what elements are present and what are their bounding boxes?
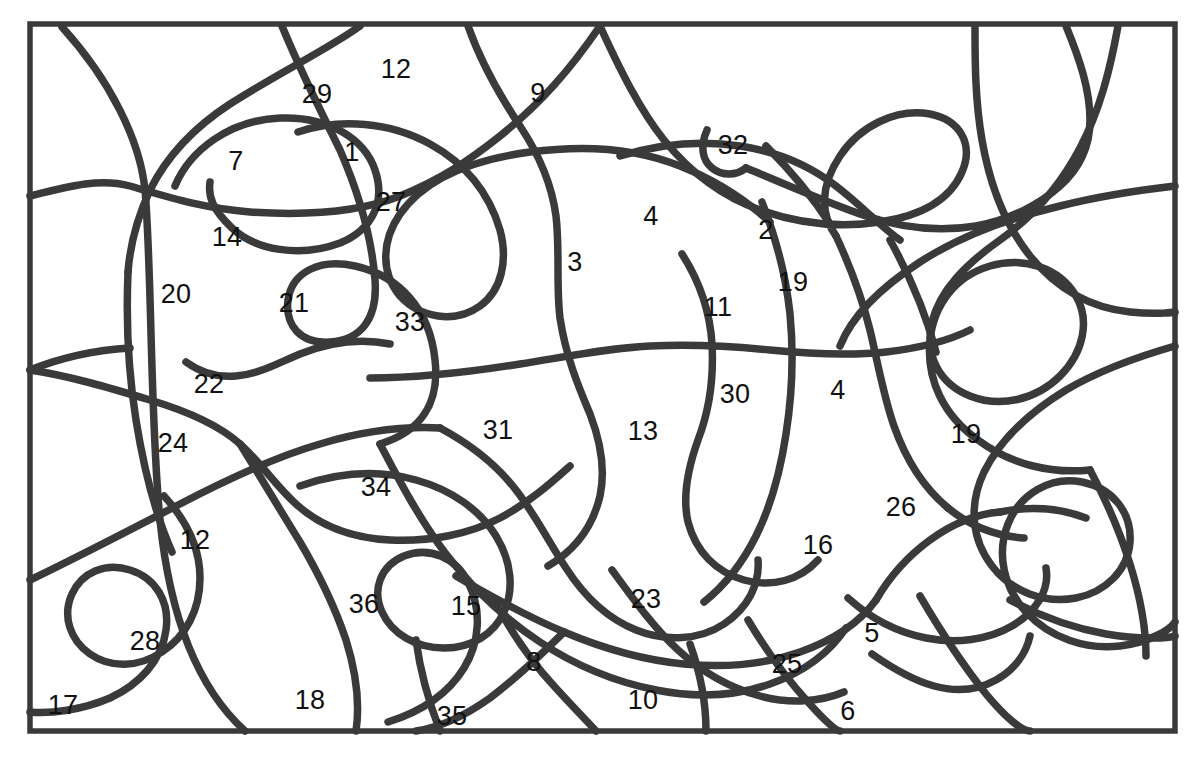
- map-curve: [456, 576, 876, 666]
- map-curve: [746, 26, 1090, 229]
- region-number-label: 19: [778, 269, 809, 296]
- region-number-label: 34: [361, 474, 392, 501]
- region-number-label: 22: [194, 371, 225, 398]
- region-number-label: 17: [48, 692, 79, 719]
- map-curve: [30, 370, 570, 540]
- region-number-label: 12: [381, 56, 412, 83]
- region-number-label: 13: [628, 418, 659, 445]
- region-number-label: 20: [161, 281, 192, 308]
- region-number-label: 28: [130, 628, 161, 655]
- region-number-label: 30: [720, 381, 751, 408]
- region-number-label: 2: [758, 217, 773, 244]
- region-number-label: 1: [344, 139, 359, 166]
- region-number-label: 29: [302, 81, 333, 108]
- region-number-label: 14: [212, 224, 243, 251]
- region-number-label: 4: [643, 203, 658, 230]
- region-number-label: 31: [483, 417, 514, 444]
- region-number-label: 15: [451, 593, 482, 620]
- region-number-label: 10: [628, 687, 659, 714]
- region-number-label: 36: [349, 591, 380, 618]
- region-number-label: 26: [886, 494, 917, 521]
- region-number-label: 9: [530, 80, 545, 107]
- region-number-label: 27: [376, 189, 407, 216]
- map-curve: [30, 428, 440, 580]
- region-number-label: 33: [395, 309, 426, 336]
- region-number-label: 7: [228, 148, 243, 175]
- region-number-label: 32: [718, 132, 749, 159]
- region-number-label: 16: [803, 532, 834, 559]
- map-curve: [30, 348, 130, 370]
- map-curve: [690, 644, 706, 731]
- map-svg: [0, 0, 1200, 759]
- region-number-label: 24: [158, 430, 189, 457]
- region-number-label: 35: [437, 703, 468, 730]
- region-number-label: 19: [951, 421, 982, 448]
- region-number-label: 5: [864, 620, 879, 647]
- region-number-label: 3: [567, 249, 582, 276]
- region-number-label: 21: [279, 290, 310, 317]
- region-number-label: 23: [631, 586, 662, 613]
- region-map-figure: 1229932712742143192021113322304311319243…: [0, 0, 1200, 759]
- region-number-label: 4: [830, 377, 845, 404]
- map-curve: [682, 254, 818, 583]
- region-number-label: 6: [840, 698, 855, 725]
- region-number-label: 18: [295, 687, 326, 714]
- region-number-label: 11: [704, 294, 733, 321]
- region-number-label: 25: [772, 651, 803, 678]
- region-number-label: 8: [526, 649, 541, 676]
- map-curve: [974, 346, 1175, 647]
- region-number-label: 12: [180, 527, 211, 554]
